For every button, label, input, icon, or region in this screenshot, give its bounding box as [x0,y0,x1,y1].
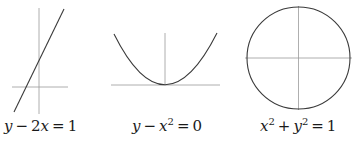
eq-exponent: 2 [168,116,174,127]
eq-rhs: 1 [327,117,337,135]
circle-graph [245,6,352,110]
eq-exponent: 2 [268,116,274,127]
eq-equals: = [174,117,193,135]
eq-minus: − [12,117,31,135]
eq-coef-var: 2x [31,117,49,135]
eq-var-y: y [293,117,301,135]
eq-equals: = [49,117,68,135]
eq-rhs: 1 [68,117,78,135]
eq-rhs: 0 [192,117,202,135]
eq-plus: + [275,117,294,135]
parabola-equation-label: y−x2=0 [132,115,202,137]
linear-graph [12,8,68,114]
eq-var-x: x [159,117,167,135]
eq-equals: = [308,117,327,135]
eq-minus: − [140,117,159,135]
circle-equation-label: x2+y2=1 [260,115,336,137]
parabola-graph [111,33,220,85]
linear-equation-label: y−2x=1 [4,115,77,137]
parabola-curve [114,33,217,85]
